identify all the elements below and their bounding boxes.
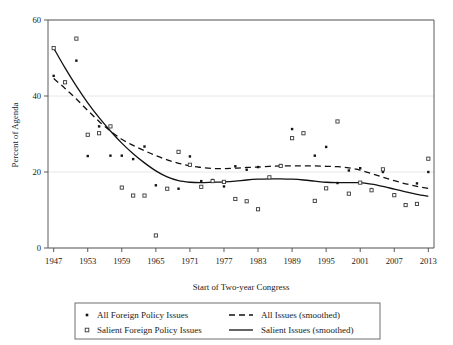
x-tick-label-2007: 2007: [386, 256, 404, 266]
data-point: [121, 154, 123, 156]
data-point: [234, 165, 236, 167]
data-point: [268, 176, 271, 179]
data-point: [132, 158, 134, 160]
data-point: [87, 155, 89, 157]
data-point: [427, 157, 430, 160]
x-tick-label-1971: 1971: [181, 256, 198, 266]
x-tick-label-1965: 1965: [147, 256, 164, 266]
data-point: [427, 171, 429, 173]
data-point: [404, 203, 407, 206]
data-point: [109, 154, 111, 156]
x-tick-label-1983: 1983: [249, 256, 266, 266]
data-point: [120, 186, 123, 189]
data-point: [63, 81, 66, 84]
data-point: [370, 189, 373, 192]
y-axis-label: Percent of Agenda: [10, 102, 20, 167]
data-point: [177, 150, 180, 153]
legend-filled-square-icon: [86, 314, 89, 317]
plot-frame: [48, 20, 434, 248]
data-point: [359, 167, 361, 169]
data-point: [143, 145, 145, 147]
data-point: [188, 163, 191, 166]
data-point: [166, 187, 169, 190]
data-point: [97, 132, 100, 135]
data-point: [234, 197, 237, 200]
data-point: [314, 154, 316, 156]
data-point: [223, 185, 225, 187]
data-point: [336, 182, 338, 184]
data-point: [143, 194, 146, 197]
legend-label: All Foreign Policy Issues: [97, 310, 189, 320]
data-point: [325, 187, 328, 190]
data-point: [200, 180, 202, 182]
data-point: [313, 199, 316, 202]
data-point: [75, 59, 77, 61]
x-tick-label-1977: 1977: [215, 256, 233, 266]
foreign-policy-agenda-chart: 0204060 19471953195919651971197719831989…: [0, 0, 453, 345]
data-point: [416, 182, 418, 184]
legend: All Foreign Policy IssuesSalient Foreign…: [75, 303, 380, 339]
data-point: [347, 192, 350, 195]
legend-label: Salient Foreign Policy Issues: [97, 325, 202, 335]
data-point: [155, 184, 157, 186]
legend-open-square-icon: [85, 328, 89, 332]
y-axis-ticks: 0204060: [32, 15, 48, 253]
x-axis-ticks: 1947195319591965197119771983198919952001…: [45, 248, 437, 266]
x-tick-label-1995: 1995: [318, 256, 335, 266]
data-point: [200, 185, 203, 188]
x-tick-label-2013: 2013: [420, 256, 437, 266]
data-point: [393, 194, 396, 197]
data-point: [222, 180, 225, 183]
data-point: [245, 169, 247, 171]
legend-item[interactable]: Salient Foreign Policy Issues: [85, 325, 202, 335]
x-tick-label-2001: 2001: [352, 256, 369, 266]
x-tick-label-1989: 1989: [283, 256, 300, 266]
data-point: [154, 234, 157, 237]
data-point: [189, 155, 191, 157]
gridlines: [48, 20, 434, 248]
x-tick-label-1953: 1953: [79, 256, 96, 266]
data-point: [177, 188, 179, 190]
x-tick-label-1959: 1959: [113, 256, 130, 266]
data-point: [52, 75, 54, 77]
data-point: [132, 194, 135, 197]
data-point: [291, 128, 293, 130]
data-point: [86, 133, 89, 136]
data-point: [257, 166, 259, 168]
data-point: [75, 37, 78, 40]
data-point: [290, 137, 293, 140]
figure-container: 0204060 19471953195919651971197719831989…: [0, 0, 453, 345]
x-axis-label: Start of Two-year Congress: [193, 282, 290, 292]
data-point: [325, 146, 327, 148]
data-point: [211, 180, 214, 183]
y-tick-label-20: 20: [32, 167, 41, 177]
data-point: [302, 132, 305, 135]
data-point: [245, 200, 248, 203]
legend-item[interactable]: All Foreign Policy Issues: [86, 310, 189, 320]
y-tick-label-60: 60: [32, 15, 41, 25]
data-point: [415, 202, 418, 205]
x-tick-label-1947: 1947: [45, 256, 63, 266]
legend-label: Salient Issues (smoothed): [261, 325, 354, 335]
data-point: [336, 120, 339, 123]
y-tick-label-40: 40: [32, 91, 41, 101]
data-point: [109, 125, 112, 128]
data-point: [348, 169, 350, 171]
data-point: [256, 208, 259, 211]
data-point: [279, 164, 282, 167]
y-tick-label-0: 0: [37, 243, 41, 253]
data-point: [52, 47, 55, 50]
data-points: [52, 37, 430, 237]
legend-label: All Issues (smoothed): [261, 310, 340, 320]
data-point: [359, 181, 362, 184]
smoothed-lines: [54, 48, 429, 196]
smoothed-line-salient-issues: [54, 48, 429, 196]
data-point: [381, 168, 384, 171]
data-point: [98, 125, 100, 127]
